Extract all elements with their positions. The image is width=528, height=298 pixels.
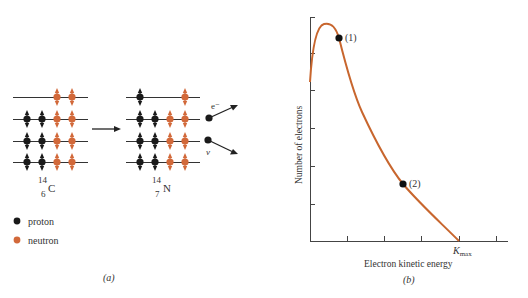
panel-a-caption: (a)	[103, 272, 115, 284]
point-2-marker	[399, 180, 406, 187]
neutron-icon	[53, 88, 60, 106]
neutron-icon	[166, 132, 173, 150]
panel-b-caption: (b)	[403, 274, 415, 286]
proton-icon	[151, 132, 158, 150]
kmax-label: Kmax	[452, 245, 472, 258]
y-axis-label: Number of electrons	[294, 106, 304, 184]
electron-label: e⁻	[211, 101, 220, 111]
x-ticks	[348, 236, 497, 241]
neutron-icon	[181, 132, 188, 150]
svg-text:C: C	[48, 182, 55, 194]
proton-icon	[151, 153, 158, 171]
neutron-icon	[68, 88, 75, 106]
emitted-neutrino: ν	[204, 136, 238, 157]
nitrogen-14-nucleus-levels	[126, 88, 200, 171]
neutron-icon	[53, 153, 60, 171]
neutron-icon	[68, 110, 75, 128]
point-1-label: (1)	[345, 32, 357, 44]
proton-icon	[23, 132, 30, 150]
proton-icon	[151, 110, 158, 128]
svg-text:7: 7	[155, 189, 160, 199]
neutron-icon	[53, 110, 60, 128]
neutron-icon	[68, 153, 75, 171]
proton-icon	[136, 88, 143, 106]
proton-icon	[136, 110, 143, 128]
energy-spectrum-chart: (1) (2) Kmax Number of electrons Electro…	[294, 17, 508, 286]
neutron-icon	[166, 153, 173, 171]
neutron-icon	[68, 132, 75, 150]
carbon-14-nucleus-levels	[13, 88, 88, 171]
proton-icon	[38, 153, 45, 171]
decay-arrow-icon	[92, 126, 121, 132]
neutron-icon	[53, 132, 60, 150]
carbon-14-label: 14 6 C	[38, 175, 55, 199]
proton-icon	[23, 153, 30, 171]
proton-legend-icon	[14, 218, 21, 225]
x-axis-label: Electron kinetic energy	[364, 259, 453, 269]
neutron-icon	[181, 153, 188, 171]
nitrogen-14-label: 14 7 N	[152, 175, 171, 199]
proton-icon	[136, 153, 143, 171]
emitted-electron: e⁻	[205, 101, 238, 122]
legend-proton-label: proton	[28, 216, 54, 227]
neutrino-label: ν	[206, 147, 210, 157]
svg-text:14: 14	[38, 175, 48, 185]
beta-decay-figure: e⁻ ν 14 6 C 14 7 N proton neutron (a)	[0, 0, 528, 298]
svg-text:14: 14	[152, 175, 162, 185]
neutron-legend-icon	[14, 237, 21, 244]
proton-icon	[38, 110, 45, 128]
neutron-icon	[181, 110, 188, 128]
proton-icon	[23, 110, 30, 128]
neutron-icon	[181, 88, 188, 106]
point-2-label: (2)	[409, 178, 421, 190]
neutron-icon	[166, 110, 173, 128]
svg-text:N: N	[163, 182, 171, 194]
legend: proton neutron	[14, 216, 59, 246]
legend-neutron-label: neutron	[28, 235, 59, 246]
svg-text:6: 6	[41, 189, 46, 199]
proton-icon	[38, 132, 45, 150]
proton-icon	[136, 132, 143, 150]
spectrum-curve	[310, 24, 459, 241]
point-1-marker	[335, 34, 342, 41]
